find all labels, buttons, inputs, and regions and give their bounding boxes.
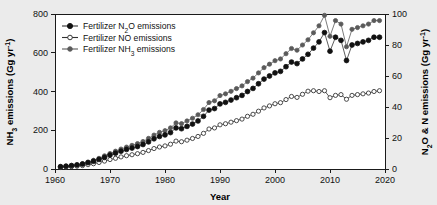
data-point — [317, 24, 321, 28]
data-point — [190, 116, 194, 120]
data-point — [196, 134, 200, 138]
right-tick-label: 100 — [392, 9, 407, 19]
data-point — [64, 164, 69, 169]
data-point — [278, 101, 282, 105]
data-point — [141, 150, 145, 154]
legend-marker — [68, 47, 73, 52]
data-point — [350, 43, 355, 48]
data-point — [306, 52, 311, 57]
data-point — [152, 146, 156, 150]
data-point — [185, 138, 189, 142]
left-tick-label: 0 — [43, 164, 48, 174]
data-point — [300, 57, 305, 62]
data-point — [174, 121, 178, 125]
data-point — [355, 93, 359, 97]
data-point — [163, 133, 168, 138]
data-point — [212, 126, 216, 130]
chart-figure: 0200400600800 020406080100 1960197019801… — [0, 0, 437, 205]
data-point — [284, 52, 288, 56]
x-tick-label: 2010 — [320, 175, 340, 185]
x-tick-label: 2000 — [265, 175, 285, 185]
data-point — [333, 93, 337, 97]
data-point — [229, 120, 233, 124]
data-point — [289, 46, 293, 50]
data-point — [86, 160, 91, 165]
data-point — [251, 76, 255, 80]
left-tick-label: 200 — [33, 125, 48, 135]
data-point — [124, 154, 128, 158]
data-point — [113, 156, 117, 160]
data-point — [240, 84, 244, 88]
data-point — [256, 109, 260, 113]
data-point — [245, 114, 249, 118]
data-point — [322, 89, 326, 93]
data-point — [163, 144, 167, 148]
data-point — [223, 100, 228, 105]
data-point — [328, 49, 333, 54]
data-point — [212, 99, 216, 103]
data-point — [168, 142, 172, 146]
data-point — [108, 157, 112, 161]
data-point — [361, 92, 365, 96]
data-point — [339, 38, 344, 43]
data-point — [130, 146, 135, 151]
data-point — [201, 107, 205, 111]
data-point — [113, 151, 118, 156]
data-point — [69, 163, 74, 168]
right-tick-label: 40 — [392, 102, 402, 112]
data-point — [80, 162, 85, 167]
data-point — [240, 117, 244, 121]
data-point — [141, 142, 146, 147]
data-point — [377, 18, 381, 22]
data-point — [350, 27, 354, 31]
data-point — [366, 91, 370, 95]
right-tick-label: 60 — [392, 71, 402, 81]
data-point — [267, 62, 271, 66]
data-point — [179, 140, 183, 144]
data-point — [366, 22, 370, 26]
data-point — [344, 97, 348, 101]
data-point — [251, 86, 256, 91]
data-point — [135, 144, 140, 149]
data-point — [185, 119, 189, 123]
data-point — [284, 97, 288, 101]
data-point — [234, 119, 238, 123]
data-point — [240, 93, 245, 98]
data-point — [300, 43, 304, 47]
data-point — [201, 114, 206, 119]
data-point — [207, 108, 212, 113]
data-point — [218, 123, 222, 127]
data-point — [328, 96, 332, 100]
data-point — [377, 35, 382, 40]
data-point — [97, 157, 102, 162]
data-point — [229, 98, 234, 103]
data-point — [295, 95, 299, 99]
right-tick-label: 0 — [392, 164, 397, 174]
data-point — [306, 89, 310, 93]
data-point — [212, 106, 217, 111]
data-point — [317, 89, 321, 93]
data-point — [185, 124, 190, 129]
data-point — [179, 126, 184, 131]
data-point — [311, 89, 315, 93]
x-axis-title: Year — [210, 191, 230, 202]
data-point — [146, 139, 151, 144]
x-tick-label: 1980 — [155, 175, 175, 185]
data-point — [377, 89, 381, 93]
data-point — [372, 18, 376, 22]
left-tick-label: 400 — [33, 87, 48, 97]
data-point — [207, 127, 211, 131]
data-point — [273, 71, 278, 76]
data-point — [256, 71, 260, 75]
data-point — [223, 122, 227, 126]
data-point — [108, 153, 113, 158]
data-point — [339, 93, 343, 97]
legend-label: Fertilizer NO emissions — [83, 33, 172, 43]
data-point — [322, 13, 326, 17]
data-point — [201, 131, 205, 135]
data-point — [174, 126, 179, 131]
data-point — [267, 74, 272, 79]
left-tick-label: 800 — [33, 9, 48, 19]
data-point — [196, 119, 201, 124]
data-point — [245, 89, 250, 94]
